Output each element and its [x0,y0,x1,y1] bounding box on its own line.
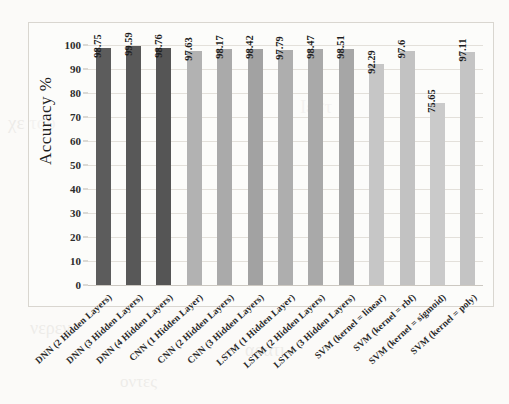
accuracy-bar-chart: Accuracy % 0102030405060708090100 98.759… [0,0,509,404]
bar-slot: 97.6 [392,45,422,285]
bar-slot: 98.51 [331,45,361,285]
bar-slot: 98.75 [88,45,118,285]
y-tick-label: 30 [70,207,81,219]
bar[interactable]: 75.65 [430,103,445,285]
bar-value-label: 75.65 [426,90,437,114]
bar-slot: 97.11 [453,45,483,285]
bar-slot: 99.59 [118,45,148,285]
bar-slot: 75.65 [422,45,452,285]
bar-value-label: 98.47 [305,35,316,59]
bar[interactable]: 98.17 [217,49,232,285]
bar[interactable]: 98.75 [96,48,111,285]
bar-value-label: 92.29 [366,50,377,74]
bar[interactable]: 98.42 [248,49,263,285]
bar[interactable]: 97.11 [460,52,475,285]
bar[interactable]: 97.63 [187,51,202,285]
plot-area: 0102030405060708090100 98.7599.5998.7697… [88,45,483,285]
bar[interactable]: 99.59 [126,46,141,285]
y-tick-label: 90 [70,63,81,75]
bar-slot: 98.47 [301,45,331,285]
bar-value-label: 97.11 [457,38,468,61]
y-tick-label: 70 [70,111,81,123]
y-axis-title: Accuracy % [36,76,56,165]
bar-value-label: 98.76 [153,34,164,58]
bar-value-label: 97.63 [183,37,194,61]
y-tick-label: 0 [76,279,82,291]
bar[interactable]: 97.6 [400,51,415,285]
bar-value-label: 98.17 [214,36,225,60]
gridline [88,285,483,286]
y-tick-label: 20 [70,231,81,243]
bar[interactable]: 98.76 [156,48,171,285]
bar-value-label: 97.79 [274,37,285,61]
y-tick-label: 60 [70,135,81,147]
bar[interactable]: 98.51 [339,49,354,285]
bar-slot: 98.42 [240,45,270,285]
bar-slot: 97.79 [270,45,300,285]
y-tick-label: 80 [70,87,81,99]
y-tick-label: 100 [65,39,82,51]
y-tick-label: 40 [70,183,81,195]
bar-slot: 98.76 [149,45,179,285]
bar-value-label: 99.59 [123,32,134,56]
bar-value-label: 97.6 [396,40,407,58]
y-tick-label: 10 [70,255,81,267]
bar-slot: 98.17 [210,45,240,285]
bar[interactable]: 92.29 [369,64,384,285]
bar-value-label: 98.75 [92,34,103,58]
bar-value-label: 98.42 [244,35,255,59]
bar[interactable]: 97.79 [278,50,293,285]
bar-slot: 97.63 [179,45,209,285]
bar-value-label: 98.51 [335,35,346,59]
bar-slot: 92.29 [361,45,391,285]
y-tick-label: 50 [70,159,81,171]
bar[interactable]: 98.47 [308,49,323,285]
